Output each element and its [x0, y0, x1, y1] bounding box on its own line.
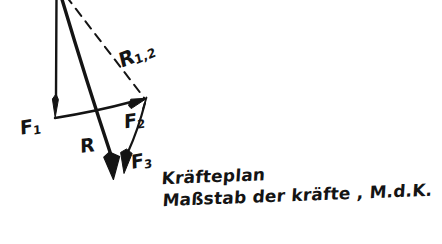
label-f1: F1	[20, 115, 42, 139]
label-f3: F3	[131, 149, 153, 174]
label-r-base: R	[80, 133, 95, 157]
label-f2: F2	[124, 109, 145, 133]
label-f1-sub: 1	[33, 122, 42, 137]
label-f3-base: F	[131, 148, 145, 172]
label-f2-sub: 2	[137, 117, 145, 132]
sketch-canvas: F1 F2 F3 R R1,2 Kräfteplan Maßstab der k…	[0, 0, 442, 244]
label-f1-base: F	[20, 115, 34, 139]
label-f2-base: F	[124, 109, 137, 133]
label-r: R	[80, 135, 95, 158]
vector-f1	[52, 0, 58, 118]
label-f3-sub: 3	[144, 156, 153, 172]
